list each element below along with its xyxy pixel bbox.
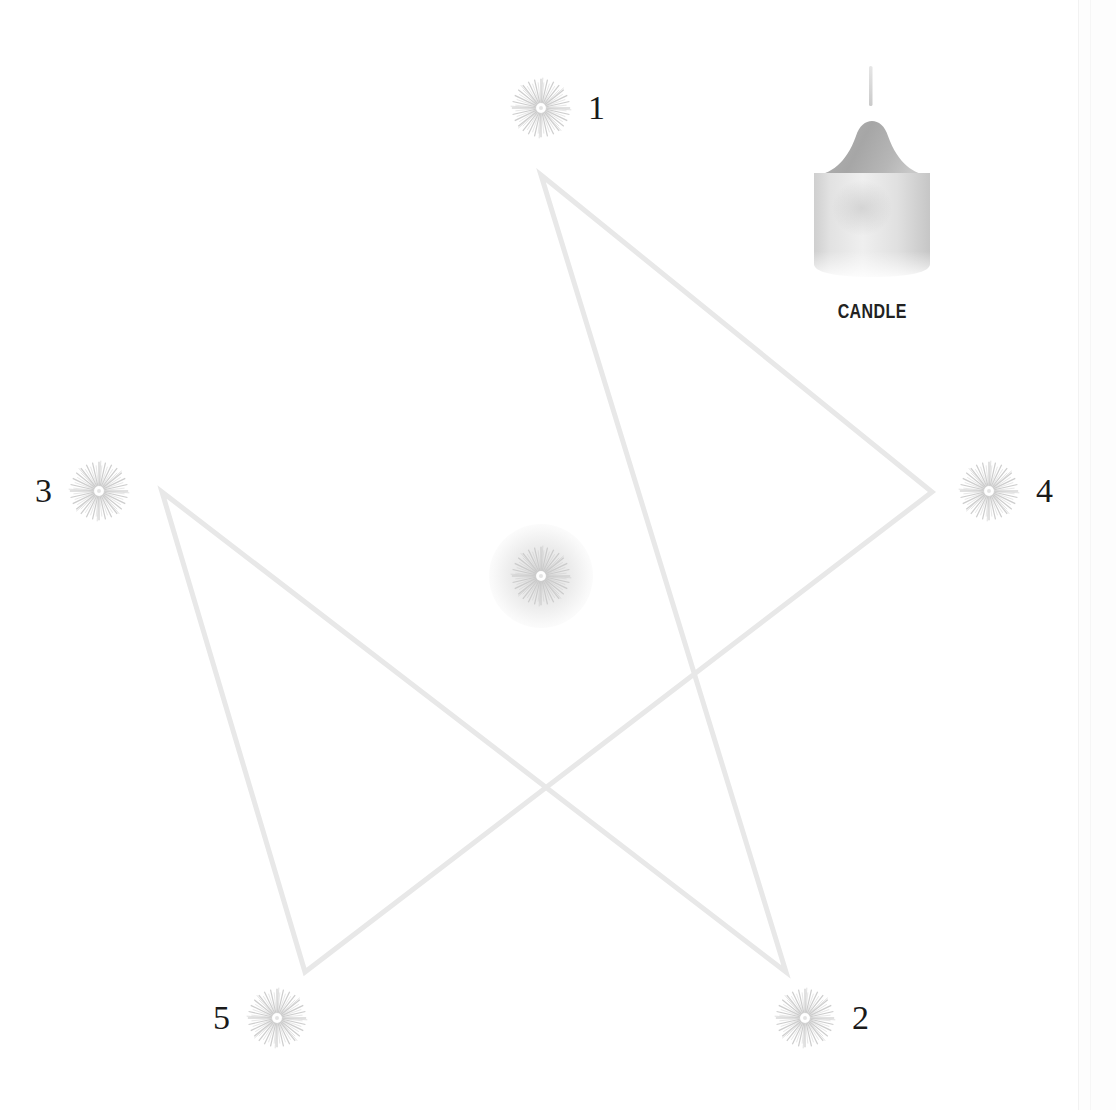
ritual-node-3[interactable]: 3: [68, 460, 130, 522]
starburst-icon: [774, 987, 836, 1049]
starburst-icon: [68, 460, 130, 522]
ritual-node-center[interactable]: [510, 545, 572, 607]
ritual-scene: 1 2 3 4 5: [0, 0, 1116, 1110]
starburst-icon: [510, 545, 572, 607]
node-label-1: 1: [588, 91, 605, 125]
node-label-2: 2: [852, 1001, 869, 1035]
starburst-icon: [246, 987, 308, 1049]
candle-item-label: CANDLE: [837, 300, 906, 323]
ritual-node-4[interactable]: 4: [958, 460, 1020, 522]
candle-icon: [800, 58, 944, 288]
node-label-5: 5: [213, 1001, 230, 1035]
ritual-node-1[interactable]: 1: [510, 77, 572, 139]
node-label-4: 4: [1036, 474, 1053, 508]
node-label-3: 3: [35, 474, 52, 508]
ritual-node-5[interactable]: 5: [246, 987, 308, 1049]
starburst-icon: [958, 460, 1020, 522]
ritual-node-2[interactable]: 2: [774, 987, 836, 1049]
starburst-icon: [510, 77, 572, 139]
candle-item[interactable]: CANDLE: [800, 58, 944, 323]
